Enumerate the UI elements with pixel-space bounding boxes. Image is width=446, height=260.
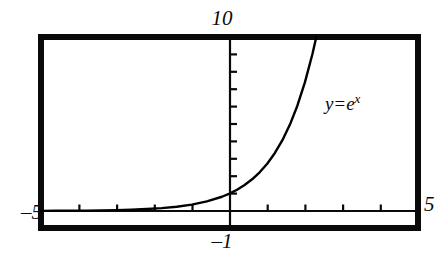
x-axis-min-label: –5 xyxy=(2,202,42,223)
y-axis-min-label: –1 xyxy=(0,231,445,252)
exponential-function-graph-figure: 10 –5 5 –1 y=ex xyxy=(0,0,446,260)
curve-equation-label: y=ex xyxy=(325,92,360,113)
x-axis-max-label: 5 xyxy=(424,194,435,215)
equation-exponent: x xyxy=(355,91,361,106)
y-axis-max-label: 10 xyxy=(0,8,445,29)
equation-operator: = xyxy=(333,93,346,114)
plot-canvas xyxy=(0,0,446,260)
equation-base: e xyxy=(346,93,354,114)
